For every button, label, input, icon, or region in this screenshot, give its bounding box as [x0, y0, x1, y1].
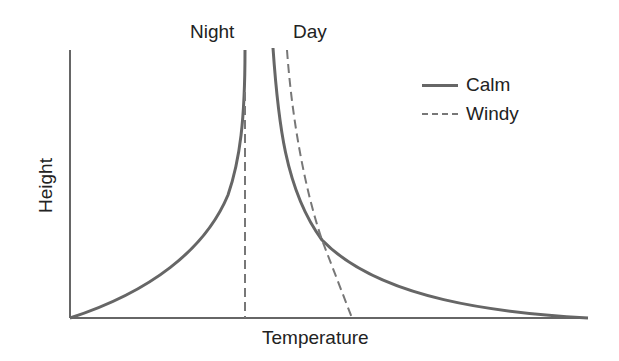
legend-item-calm: Calm [422, 74, 510, 96]
legend-label-calm: Calm [466, 74, 510, 96]
night-label: Night [190, 22, 234, 41]
solid-line-swatch-icon [422, 84, 458, 87]
x-axis-label: Temperature [262, 328, 369, 347]
chart-canvas [0, 0, 619, 361]
night-calm-curve [70, 50, 245, 318]
legend-label-windy: Windy [466, 103, 519, 125]
day-windy-line [287, 50, 352, 318]
y-axis-label: Height [36, 151, 55, 221]
day-label: Day [293, 22, 327, 41]
legend-item-windy: Windy [422, 103, 519, 125]
dashed-line-swatch-icon [422, 113, 458, 115]
